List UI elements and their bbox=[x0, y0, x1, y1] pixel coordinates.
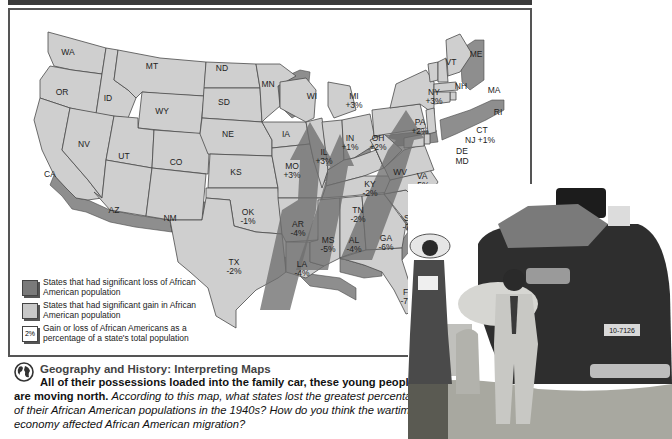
state-VT bbox=[428, 62, 438, 82]
label-IA: IA bbox=[282, 130, 290, 139]
legend-gain: States that had significant gain in Afri… bbox=[22, 301, 222, 320]
state-NE bbox=[200, 118, 272, 156]
label-ND: ND bbox=[216, 64, 228, 73]
legend-loss: States that had significant loss of Afri… bbox=[22, 278, 222, 297]
label-MS: MS-5% bbox=[320, 236, 335, 254]
label-UT: UT bbox=[118, 152, 129, 161]
migration-photo: 10-7126 bbox=[408, 184, 672, 439]
label-CA: CA bbox=[44, 170, 56, 179]
label-IL: IL+3% bbox=[315, 148, 332, 166]
label-AR: AR-4% bbox=[290, 220, 305, 238]
label-KY: KY-2% bbox=[362, 180, 377, 198]
label-VT: VT bbox=[446, 58, 457, 67]
percentage-swatch: 2% bbox=[22, 326, 38, 342]
caption-title: Geography and History: Interpreting Maps bbox=[40, 363, 271, 375]
gain-swatch bbox=[22, 303, 38, 319]
loss-swatch bbox=[22, 280, 38, 296]
label-MN: MN bbox=[261, 80, 274, 89]
label-CT: CT bbox=[476, 126, 487, 135]
map-legend: States that had significant loss of Afri… bbox=[22, 278, 222, 347]
label-WV: WV bbox=[393, 168, 407, 177]
label-NE: NE bbox=[222, 130, 234, 139]
label-MA: MA bbox=[488, 86, 501, 95]
label-OR: OR bbox=[56, 88, 69, 97]
label-NY: NY+3% bbox=[425, 88, 442, 106]
label-NV: NV bbox=[78, 140, 90, 149]
header-bar bbox=[8, 0, 532, 5]
label-KS: KS bbox=[230, 168, 241, 177]
label-ME: ME bbox=[470, 50, 483, 59]
label-WY: WY bbox=[155, 107, 169, 116]
state-SD bbox=[202, 88, 262, 122]
label-WA: WA bbox=[61, 48, 74, 57]
label-NH: NH bbox=[455, 82, 467, 91]
label-PA: PA+2% bbox=[411, 118, 428, 136]
state-KS bbox=[208, 154, 278, 188]
label-MT: MT bbox=[146, 62, 158, 71]
label-DE: DE bbox=[456, 147, 468, 156]
state-ND bbox=[204, 62, 260, 88]
legend-percentage: 2% Gain or loss of African Americans as … bbox=[22, 324, 222, 343]
label-RI: RI bbox=[494, 108, 503, 117]
label-ID: ID bbox=[104, 94, 113, 103]
label-CO: CO bbox=[170, 158, 183, 167]
label-GA: GA-6% bbox=[378, 234, 393, 252]
state-WY bbox=[138, 92, 204, 134]
label-WI: WI bbox=[307, 92, 317, 101]
label-AL: AL-4% bbox=[346, 236, 361, 254]
label-OH: OH+2% bbox=[369, 134, 386, 152]
label-NM: NM bbox=[163, 214, 176, 223]
label-TX: TX-2% bbox=[226, 258, 241, 276]
label-OK: OK-1% bbox=[240, 208, 255, 226]
label-SD: SD bbox=[218, 98, 230, 107]
label-LA: LA-4% bbox=[294, 260, 309, 278]
label-IN: IN+1% bbox=[341, 134, 358, 152]
label-AZ: AZ bbox=[109, 206, 120, 215]
license-plate-text: 10-7126 bbox=[609, 327, 635, 334]
caption-body: All of their possessions loaded into the… bbox=[14, 375, 434, 431]
label-NJ: NJ +1% bbox=[465, 136, 495, 145]
label-MI: MI+3% bbox=[345, 92, 362, 110]
label-MO: MO+3% bbox=[283, 162, 300, 180]
label-TN: TN-2% bbox=[350, 206, 365, 224]
state-RI bbox=[450, 92, 456, 100]
label-MD: MD bbox=[455, 157, 468, 166]
